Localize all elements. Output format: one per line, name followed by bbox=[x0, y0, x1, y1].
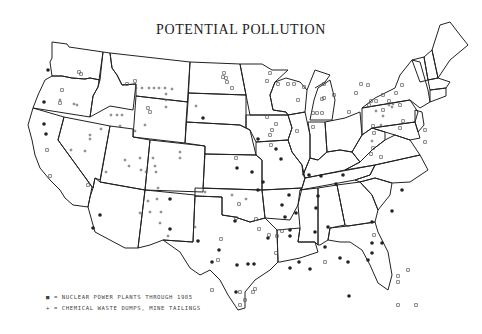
nuclear-square-icon bbox=[266, 116, 269, 119]
state-arizona bbox=[88, 178, 145, 248]
state-outlines bbox=[28, 22, 468, 310]
nuclear-dot-icon bbox=[98, 213, 102, 217]
nuclear-square-icon bbox=[316, 112, 319, 115]
plus-icon bbox=[100, 128, 103, 131]
plus-icon bbox=[391, 106, 394, 109]
plus-icon bbox=[179, 157, 182, 160]
nuclear-square-icon bbox=[266, 80, 269, 83]
nuclear-square-icon bbox=[312, 126, 315, 129]
legend-row-nuclear: ■ = NUCLEAR POWER PLANTS THROUGH 1985 bbox=[46, 292, 201, 303]
nuclear-square-icon bbox=[367, 84, 370, 87]
nuclear-square-icon bbox=[211, 289, 214, 292]
nuclear-square-icon bbox=[370, 153, 373, 156]
nuclear-square-icon bbox=[372, 125, 375, 128]
nuclear-square-icon bbox=[424, 141, 427, 144]
nuclear-square-icon bbox=[239, 291, 242, 294]
plus-icon bbox=[155, 171, 158, 174]
nuclear-square-icon bbox=[134, 80, 137, 83]
plus-icon bbox=[73, 103, 76, 106]
state-kentucky bbox=[303, 150, 360, 178]
nuclear-square-icon bbox=[46, 149, 49, 152]
nuclear-dot-icon bbox=[323, 245, 327, 249]
nuclear-square-icon bbox=[397, 275, 400, 278]
state-washington bbox=[50, 42, 103, 80]
nuclear-dot-icon bbox=[235, 166, 239, 170]
state-wyoming bbox=[133, 96, 188, 143]
nuclear-square-icon bbox=[252, 291, 255, 294]
plus-icon bbox=[147, 200, 150, 203]
nuclear-square-icon bbox=[297, 99, 300, 102]
nuclear-dot-icon bbox=[346, 260, 350, 264]
plus-icon bbox=[159, 222, 162, 225]
nuclear-dot-icon bbox=[338, 256, 342, 260]
state-mississippi bbox=[298, 188, 318, 245]
nuclear-square-icon bbox=[375, 100, 378, 103]
plus-icon bbox=[152, 157, 155, 160]
state-louisiana bbox=[277, 228, 318, 262]
nuclear-square-icon bbox=[149, 111, 152, 114]
state-minnesota bbox=[240, 64, 288, 115]
plus-icon bbox=[160, 211, 163, 214]
state-california bbox=[28, 108, 92, 207]
state-connecticut bbox=[430, 88, 446, 102]
state-massachusetts bbox=[428, 78, 450, 90]
nuclear-square-icon bbox=[348, 111, 351, 114]
nuclear-square-icon bbox=[226, 81, 229, 84]
nuclear-square-icon bbox=[324, 261, 327, 264]
nuclear-square-icon bbox=[399, 127, 402, 130]
nuclear-dot-icon bbox=[217, 248, 221, 252]
state-maryland bbox=[372, 122, 420, 140]
nuclear-dot-icon bbox=[256, 188, 260, 192]
nuclear-dot-icon bbox=[246, 262, 250, 266]
state-new-jersey bbox=[415, 110, 424, 132]
nuclear-square-icon bbox=[360, 83, 363, 86]
nuclear-square-icon bbox=[235, 157, 238, 160]
state-north-carolina bbox=[355, 155, 428, 183]
nuclear-dot-icon bbox=[196, 239, 200, 243]
nuclear-dot-icon bbox=[370, 251, 374, 255]
nuclear-dot-icon bbox=[274, 147, 278, 151]
plus-icon bbox=[89, 134, 92, 137]
plus-icon bbox=[89, 138, 92, 141]
nuclear-dot-icon bbox=[279, 157, 283, 161]
nuclear-dot-icon bbox=[370, 241, 374, 245]
plus-icon bbox=[141, 87, 144, 90]
plus-icon bbox=[231, 194, 234, 197]
nuclear-square-icon bbox=[382, 109, 385, 112]
chemical-waste-markers bbox=[59, 87, 395, 238]
nuclear-square-icon bbox=[269, 134, 272, 137]
nuclear-square-icon bbox=[217, 259, 220, 262]
plus-icon bbox=[165, 106, 168, 109]
plus-icon bbox=[116, 114, 119, 117]
plus-icon bbox=[156, 198, 159, 201]
plus-icon bbox=[157, 187, 160, 190]
nuclear-square-icon bbox=[258, 228, 261, 231]
state-virginia bbox=[345, 135, 420, 170]
nuclear-dot-icon bbox=[400, 188, 404, 192]
nuclear-square-icon bbox=[223, 72, 226, 75]
state-new-hampshire bbox=[424, 50, 438, 80]
legend: ■ = NUCLEAR POWER PLANTS THROUGH 1985 + … bbox=[46, 292, 201, 314]
nuclear-dot-icon bbox=[233, 219, 237, 223]
state-montana bbox=[110, 53, 190, 102]
nuclear-dot-icon bbox=[370, 220, 374, 224]
state-utah bbox=[100, 126, 150, 190]
plus-icon bbox=[84, 150, 87, 153]
plus-icon bbox=[167, 235, 170, 238]
nuclear-square-icon bbox=[220, 238, 223, 241]
state-south-carolina bbox=[360, 178, 392, 210]
nuclear-square-icon bbox=[59, 102, 62, 105]
plus-icon bbox=[139, 157, 142, 160]
nuclear-dot-icon bbox=[313, 230, 317, 234]
nuclear-dot-icon bbox=[347, 294, 351, 298]
nuclear-dot-icon bbox=[210, 260, 214, 264]
nuclear-dot-icon bbox=[294, 211, 298, 215]
plus-icon bbox=[154, 165, 157, 168]
nuclear-square-icon bbox=[61, 89, 64, 92]
nuclear-square-icon bbox=[49, 175, 52, 178]
nuclear-square-icon bbox=[269, 72, 272, 75]
nuclear-dot-icon bbox=[42, 100, 46, 104]
nuclear-dot-icon bbox=[380, 241, 384, 245]
plus-icon bbox=[245, 198, 248, 201]
nuclear-square-icon bbox=[402, 120, 405, 123]
